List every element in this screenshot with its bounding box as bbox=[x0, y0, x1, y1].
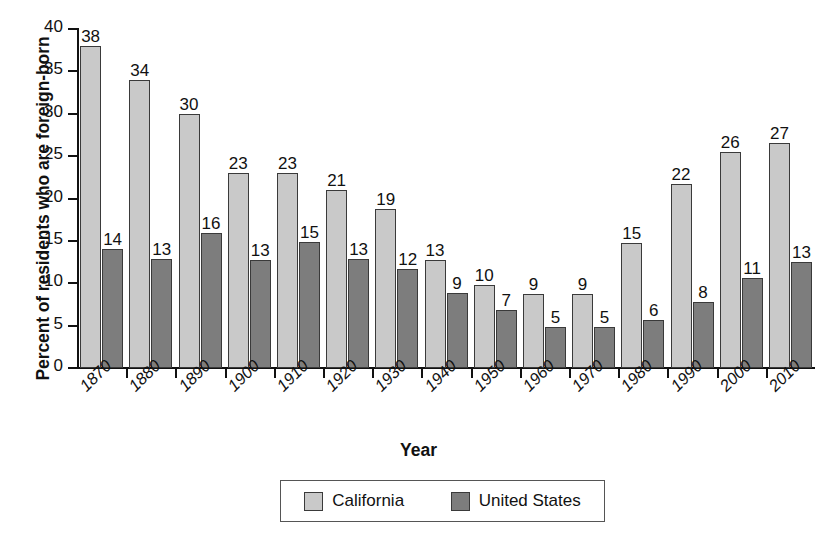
bar: 22 bbox=[671, 184, 692, 368]
x-axis-tick bbox=[126, 369, 128, 378]
x-axis-tick bbox=[471, 369, 473, 378]
bar-value-label: 23 bbox=[278, 155, 297, 172]
x-axis-tick bbox=[766, 369, 768, 378]
x-axis-tick bbox=[618, 369, 620, 378]
bar: 38 bbox=[80, 46, 101, 368]
bar-value-label: 21 bbox=[327, 172, 346, 189]
bar-value-label: 38 bbox=[81, 28, 100, 45]
x-axis-tick bbox=[274, 369, 276, 378]
y-axis-tick: 40 bbox=[68, 28, 77, 30]
bar-group: 2315 bbox=[277, 29, 320, 368]
y-axis-tick: 20 bbox=[68, 198, 77, 200]
bar-group: 228 bbox=[671, 29, 714, 368]
bar: 21 bbox=[326, 190, 347, 368]
y-axis-tick: 0 bbox=[68, 367, 77, 369]
bar-group: 95 bbox=[523, 29, 566, 368]
bar-value-label: 13 bbox=[152, 241, 171, 258]
bar-value-label: 19 bbox=[376, 191, 395, 208]
y-axis-tick: 10 bbox=[68, 282, 77, 284]
bar: 27 bbox=[769, 143, 790, 368]
bar-value-label: 9 bbox=[578, 276, 587, 293]
bar-group: 1912 bbox=[375, 29, 418, 368]
bar: 15 bbox=[299, 242, 320, 368]
chart-legend: CaliforniaUnited States bbox=[280, 480, 605, 522]
bar: 34 bbox=[129, 80, 150, 368]
legend-label: California bbox=[332, 491, 404, 511]
bar: 23 bbox=[228, 173, 249, 368]
bar-value-label: 14 bbox=[103, 231, 122, 248]
y-axis-tick-label: 10 bbox=[44, 271, 63, 291]
bar-value-label: 5 bbox=[600, 309, 609, 326]
x-axis-tick bbox=[667, 369, 669, 378]
bar: 13 bbox=[250, 260, 271, 368]
bar-value-label: 22 bbox=[672, 166, 691, 183]
bar: 15 bbox=[621, 243, 642, 368]
bar-group: 2313 bbox=[228, 29, 271, 368]
bar: 13 bbox=[348, 259, 369, 368]
bar: 9 bbox=[572, 294, 593, 368]
legend-swatch bbox=[304, 492, 323, 511]
y-axis-tick: 25 bbox=[68, 155, 77, 157]
bar-value-label: 34 bbox=[130, 62, 149, 79]
y-axis-tick: 30 bbox=[68, 113, 77, 115]
y-axis-tick: 5 bbox=[68, 325, 77, 327]
y-axis-tick-label: 20 bbox=[44, 187, 63, 207]
bar-group: 95 bbox=[572, 29, 615, 368]
bar-value-label: 9 bbox=[529, 276, 538, 293]
y-axis-tick-label: 0 bbox=[54, 356, 63, 376]
bar: 30 bbox=[179, 114, 200, 368]
bar-value-label: 12 bbox=[398, 251, 417, 268]
bar-value-label: 13 bbox=[349, 241, 368, 258]
bar-value-label: 13 bbox=[426, 242, 445, 259]
bar: 10 bbox=[474, 285, 495, 368]
bar-value-label: 15 bbox=[300, 224, 319, 241]
bar-value-label: 10 bbox=[475, 267, 494, 284]
x-axis-tick bbox=[569, 369, 571, 378]
legend-item: California bbox=[304, 491, 404, 511]
bar-value-label: 11 bbox=[743, 260, 761, 277]
bar: 12 bbox=[397, 269, 418, 368]
bar-chart: Percent of residents who are foreign-bor… bbox=[0, 0, 837, 542]
bar: 9 bbox=[447, 293, 468, 368]
bar: 13 bbox=[151, 259, 172, 368]
x-axis-tick bbox=[520, 369, 522, 378]
y-axis-tick-label: 30 bbox=[44, 102, 63, 122]
bar-value-label: 15 bbox=[622, 225, 641, 242]
y-axis-tick-label: 15 bbox=[44, 229, 63, 249]
x-axis-tick bbox=[717, 369, 719, 378]
x-axis-tick bbox=[421, 369, 423, 378]
y-axis-tick: 15 bbox=[68, 240, 77, 242]
bar: 13 bbox=[425, 260, 446, 368]
bar: 26 bbox=[720, 152, 741, 368]
plot-area: 0510152025303540 38143413301623132315211… bbox=[77, 28, 815, 368]
x-axis-tick bbox=[175, 369, 177, 378]
bar: 9 bbox=[523, 294, 544, 368]
bar: 19 bbox=[375, 209, 396, 368]
bar-value-label: 27 bbox=[770, 125, 789, 142]
bar-value-label: 13 bbox=[251, 242, 270, 259]
bar-group: 139 bbox=[425, 29, 468, 368]
bar-group: 2713 bbox=[769, 29, 812, 368]
bar-group: 3016 bbox=[179, 29, 222, 368]
bar: 23 bbox=[277, 173, 298, 368]
y-axis-tick: 35 bbox=[68, 70, 77, 72]
bar-value-label: 8 bbox=[698, 284, 707, 301]
bar-value-label: 9 bbox=[452, 275, 461, 292]
legend-item: United States bbox=[451, 491, 581, 511]
bar: 14 bbox=[102, 249, 123, 368]
legend-label: United States bbox=[479, 491, 581, 511]
bar-value-label: 6 bbox=[649, 302, 658, 319]
y-axis-tick-label: 25 bbox=[44, 144, 63, 164]
bar-value-label: 13 bbox=[792, 244, 811, 261]
bar-value-label: 26 bbox=[721, 134, 740, 151]
x-axis-title: Year bbox=[0, 440, 837, 461]
legend-swatch bbox=[451, 492, 470, 511]
bar-group: 2113 bbox=[326, 29, 369, 368]
x-axis-tick bbox=[372, 369, 374, 378]
bar: 16 bbox=[201, 233, 222, 368]
x-axis-tick bbox=[323, 369, 325, 378]
bar-group: 156 bbox=[621, 29, 664, 368]
x-axis-tick bbox=[225, 369, 227, 378]
bar-value-label: 7 bbox=[501, 292, 510, 309]
bar-group: 2611 bbox=[720, 29, 763, 368]
